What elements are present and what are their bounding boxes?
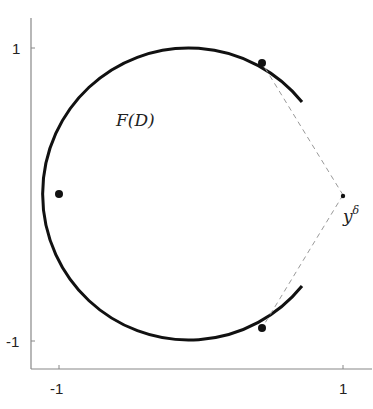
point-label: yδ [342, 204, 360, 226]
set-boundary-arc [43, 48, 302, 340]
dashed-segment-lower [262, 195, 343, 328]
point-label-base: y [342, 206, 353, 226]
point-lower-right [258, 324, 266, 332]
x-tick-label-minus1: -1 [50, 380, 63, 397]
diagram-canvas: 1 -1 -1 1 F(D) yδ [0, 0, 373, 409]
point-y-delta [341, 194, 345, 198]
point-left [55, 190, 63, 198]
dashed-segment-upper [262, 63, 343, 195]
point-label-sup: δ [353, 204, 360, 217]
set-label: F(D) [115, 110, 155, 130]
x-tick-label-1: 1 [339, 380, 347, 397]
y-tick-label-1: 1 [12, 40, 20, 57]
y-tick-label-minus1: -1 [6, 333, 19, 350]
point-upper-right [258, 59, 266, 67]
